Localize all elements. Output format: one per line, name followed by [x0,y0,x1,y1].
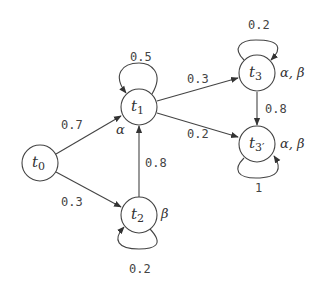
edge-label-t0-t1: 0.7 [61,118,83,132]
edge-label-t1-t3: 0.3 [187,72,209,86]
node-t3-prime: t3′ α, β [239,126,305,162]
node-t3: t3 α, β [239,55,305,91]
edge-label-t3-t3p: 0.8 [265,102,287,116]
markov-chain-diagram: 0.7 0.3 0.5 0.3 0.2 0.8 0.2 0.2 0.8 1 t0… [0,0,329,291]
edge-label-t3-loop: 0.2 [248,18,270,32]
node-props: α [116,122,125,137]
edge-label-t3p-loop: 1 [255,181,262,195]
edge-label-t1-t3p: 0.2 [187,127,209,141]
node-props: β [160,206,169,221]
edge-label-t2-t1: 0.8 [145,156,167,170]
node-t0: t0 [22,145,58,181]
node-props: α, β [280,65,305,80]
edge-label-t1-loop: 0.5 [130,50,152,64]
node-t2: t2 β [121,197,169,233]
edge-label-t0-t2: 0.3 [61,195,83,209]
edge-label-t2-loop: 0.2 [129,262,151,276]
node-t1: t1 α [116,89,157,137]
node-props: α, β [280,136,305,151]
